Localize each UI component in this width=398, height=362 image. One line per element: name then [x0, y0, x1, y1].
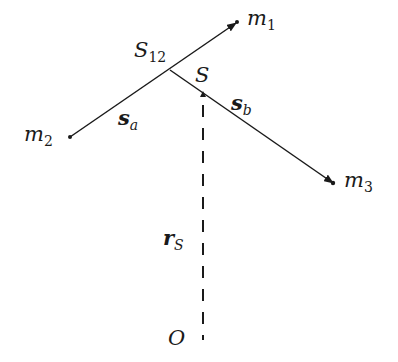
- point-m3: [331, 181, 335, 185]
- diagram-svg: [0, 0, 398, 362]
- label-s12: S12: [134, 40, 166, 61]
- label-m1: m1: [247, 8, 276, 29]
- diagram-canvas: m1 m2 m3 S12 S O sa sb rS: [0, 0, 398, 362]
- point-m2: [68, 135, 72, 139]
- label-s: S: [195, 65, 209, 86]
- label-r-s: rS: [163, 227, 184, 248]
- label-s-a: sa: [118, 107, 138, 128]
- label-m3: m3: [344, 170, 373, 191]
- label-o: O: [168, 328, 185, 349]
- label-s-b: sb: [231, 92, 252, 113]
- label-m2: m2: [24, 124, 53, 145]
- point-m1: [235, 20, 239, 24]
